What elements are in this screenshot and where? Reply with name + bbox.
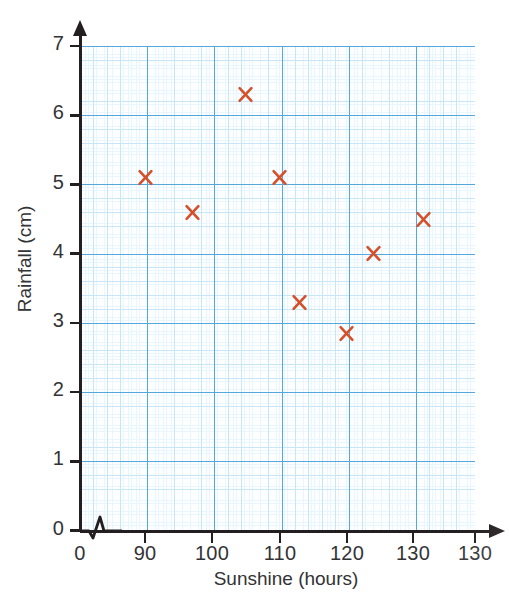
y-axis-tick-label: 7 (38, 32, 64, 55)
y-axis-tick-label: 2 (38, 378, 64, 401)
x-axis-tick-label: 0 (54, 542, 106, 565)
x-axis-line (80, 530, 492, 533)
y-axis-tick (70, 322, 82, 325)
y-axis-tick-label: 6 (38, 101, 64, 124)
x-axis-tick-label: 130 (449, 542, 501, 565)
y-axis-tick-label: 0 (38, 517, 64, 540)
x-axis-tick-label: 90 (119, 542, 171, 565)
axis-break-zigzag-icon (82, 512, 122, 540)
y-axis-tick (70, 391, 82, 394)
x-axis-tick-label: 120 (321, 542, 373, 565)
x-axis-tick-label: 110 (254, 542, 306, 565)
data-point-marker[interactable] (338, 325, 355, 342)
y-axis-tick (70, 45, 82, 48)
scatter-graph-figure: 76543210090100110120130130 Rainfall (cm)… (0, 0, 509, 598)
x-axis-tick-label: 100 (186, 542, 238, 565)
y-axis-tick (70, 252, 82, 255)
y-axis-tick (70, 529, 82, 532)
data-point-marker[interactable] (237, 86, 254, 103)
x-axis-arrowhead (489, 524, 505, 538)
x-axis-title: Sunshine (hours) (80, 568, 492, 590)
data-point-marker[interactable] (137, 169, 154, 186)
y-axis-tick (70, 183, 82, 186)
y-axis-tick (70, 460, 82, 463)
data-point-marker[interactable] (365, 245, 382, 262)
y-axis-title: Rainfall (cm) (14, 179, 36, 339)
data-point-marker[interactable] (271, 169, 288, 186)
y-axis-tick-label: 4 (38, 240, 64, 263)
x-axis-tick-label: 130 (387, 542, 439, 565)
y-axis-line (79, 32, 82, 532)
plot-area-gridpaper (80, 46, 475, 531)
y-axis-arrowhead (73, 20, 87, 36)
y-axis-tick-label: 3 (38, 309, 64, 332)
data-point-marker[interactable] (291, 294, 308, 311)
y-axis-tick (70, 114, 82, 117)
data-point-marker[interactable] (415, 211, 432, 228)
y-axis-tick-label: 5 (38, 171, 64, 194)
y-axis-tick-label: 1 (38, 447, 64, 470)
data-point-marker[interactable] (184, 204, 201, 221)
